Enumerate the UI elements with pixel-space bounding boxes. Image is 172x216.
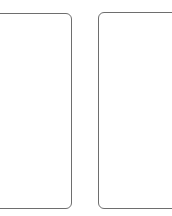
right-panel xyxy=(98,12,172,209)
left-panel xyxy=(0,13,72,209)
